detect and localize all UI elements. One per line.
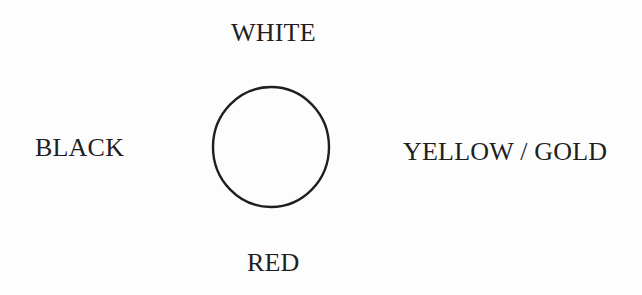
label-white-top: WHITE [231,20,316,46]
center-circle [213,87,329,207]
label-yellow-gold-right: YELLOW / GOLD [403,139,607,165]
label-red-bottom: RED [247,250,300,276]
label-black-left: BLACK [35,135,124,161]
